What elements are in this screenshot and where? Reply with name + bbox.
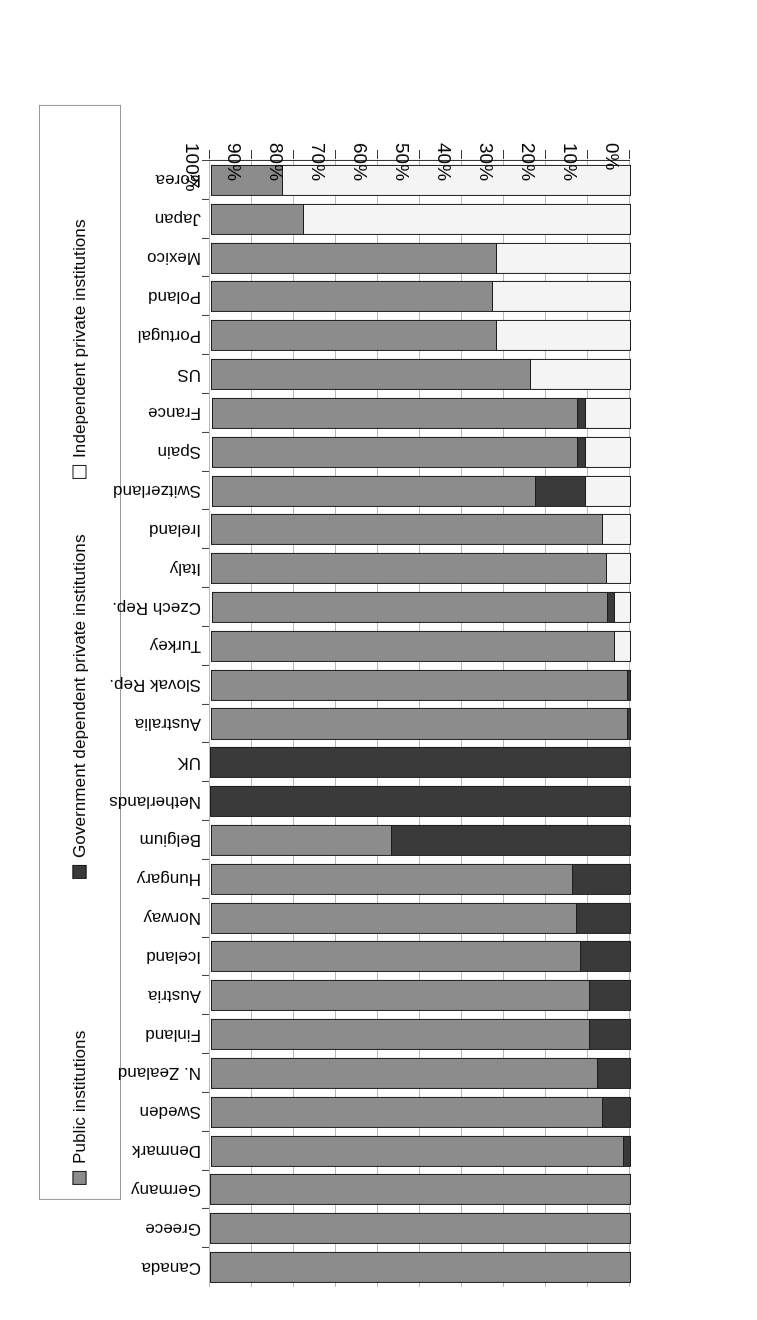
bar-segment-public — [211, 631, 615, 662]
value-tick-label: 70% — [309, 143, 328, 181]
bar-segment-indep — [585, 437, 631, 468]
category-label-ireland: Ireland — [149, 522, 201, 539]
stacked-bar[interactable] — [211, 864, 630, 895]
legend-item-independent-private-institutions[interactable]: Independent private institutions — [72, 219, 89, 479]
category-label-france: France — [148, 405, 201, 422]
bar-row — [209, 1252, 630, 1283]
stacked-bar[interactable] — [211, 553, 630, 584]
bar-row — [209, 281, 630, 312]
bar-segment-public — [211, 204, 304, 235]
stacked-bar[interactable] — [212, 437, 630, 468]
category-tick — [202, 820, 209, 821]
category-tick — [202, 509, 209, 510]
stacked-bar[interactable] — [211, 1136, 630, 1167]
value-axis: 0%10%20%30%40%50%60%70%80%90%100% — [209, 9, 630, 159]
stacked-bar[interactable] — [211, 670, 630, 701]
category-label-uk: UK — [177, 755, 201, 772]
bar-segment-public — [212, 398, 578, 429]
category-label-netherlands: Netherlands — [109, 794, 201, 811]
stacked-bar-chart: Public institutions Government dependent… — [0, 0, 757, 1320]
stacked-bar[interactable] — [211, 514, 630, 545]
bar-segment-indep — [614, 631, 631, 662]
category-tick — [202, 781, 209, 782]
category-tick — [202, 587, 209, 588]
category-tick — [202, 898, 209, 899]
bar-row — [209, 1097, 630, 1128]
bar-segment-public — [211, 281, 493, 312]
stacked-bar[interactable] — [211, 903, 630, 934]
stacked-bar[interactable] — [212, 592, 630, 623]
bar-segment-govdep — [535, 476, 586, 507]
legend-item-public-institutions[interactable]: Public institutions — [72, 1031, 89, 1185]
bar-row — [209, 398, 630, 429]
bar-segment-indep — [585, 476, 631, 507]
bar-row — [209, 476, 630, 507]
bar-segment-public — [211, 553, 607, 584]
stacked-bar[interactable] — [211, 320, 630, 351]
stacked-bar[interactable] — [211, 204, 630, 235]
bar-segment-indep — [530, 359, 631, 390]
bar-segment-govdep — [577, 437, 585, 468]
bar-row — [209, 359, 630, 390]
stacked-bar[interactable] — [211, 243, 630, 274]
bar-row — [209, 514, 630, 545]
stacked-bar[interactable] — [211, 359, 630, 390]
legend-label: Government dependent private institution… — [72, 534, 89, 858]
bar-segment-public — [212, 476, 536, 507]
value-tick — [335, 150, 336, 159]
stacked-bar[interactable] — [211, 941, 630, 972]
bar-row — [209, 1019, 630, 1050]
bar-row — [209, 708, 630, 739]
stacked-bar[interactable] — [212, 476, 630, 507]
stacked-bar[interactable] — [210, 1213, 630, 1244]
stacked-bar[interactable] — [210, 1174, 630, 1205]
bar-row — [209, 243, 630, 274]
category-label-australia: Australia — [135, 716, 201, 733]
bar-segment-public — [211, 825, 392, 856]
category-tick — [202, 626, 209, 627]
bar-segment-indep — [496, 320, 631, 351]
category-axis-labels: CanadaGreeceGermanyDenmarkSwedenN. Zeala… — [123, 161, 209, 1287]
bar-row — [209, 1213, 630, 1244]
stacked-bar[interactable] — [210, 747, 630, 778]
category-label-portugal: Portugal — [138, 328, 201, 345]
category-label-czech-rep: Czech Rep. — [112, 600, 201, 617]
bar-row — [209, 1174, 630, 1205]
rotated-figure-wrapper: Public institutions Government dependent… — [0, 0, 757, 1320]
legend-item-government-dependent-private-institutions[interactable]: Government dependent private institution… — [72, 534, 89, 879]
bar-row — [209, 204, 630, 235]
bar-segment-govdep — [577, 398, 585, 429]
category-label-sweden: Sweden — [140, 1104, 201, 1121]
category-label-finland: Finland — [145, 1027, 201, 1044]
bar-segment-indep — [602, 514, 631, 545]
bar-segment-public — [211, 708, 628, 739]
category-tick — [202, 1131, 209, 1132]
bar-segment-indep — [303, 204, 631, 235]
value-tick-label: 90% — [225, 143, 244, 181]
stacked-bar[interactable] — [211, 1019, 630, 1050]
stacked-bar[interactable] — [211, 631, 630, 662]
category-tick — [202, 975, 209, 976]
stacked-bar[interactable] — [211, 1058, 630, 1089]
category-label-greece: Greece — [145, 1221, 201, 1238]
value-tick — [419, 150, 420, 159]
stacked-bar[interactable] — [211, 980, 630, 1011]
bar-row — [209, 670, 630, 701]
bar-row — [209, 1136, 630, 1167]
bar-row — [209, 437, 630, 468]
stacked-bar[interactable] — [211, 281, 630, 312]
category-label-us: US — [177, 367, 201, 384]
stacked-bar[interactable] — [211, 708, 630, 739]
stacked-bar[interactable] — [210, 786, 630, 817]
value-tick-label: 10% — [561, 143, 580, 181]
stacked-bar[interactable] — [210, 1252, 630, 1283]
stacked-bar[interactable] — [212, 398, 630, 429]
category-tick — [202, 665, 209, 666]
stacked-bar[interactable] — [211, 1097, 630, 1128]
bar-segment-public — [211, 243, 497, 274]
stacked-bar[interactable] — [211, 825, 630, 856]
bar-segment-public — [212, 437, 578, 468]
bar-row — [209, 1058, 630, 1089]
category-tick — [202, 742, 209, 743]
bar-segment-govdep — [623, 1136, 631, 1167]
